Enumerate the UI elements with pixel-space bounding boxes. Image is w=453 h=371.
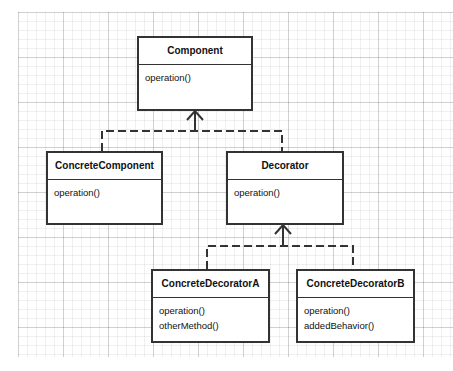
operations-list: operation() [48, 180, 161, 205]
operation: operation() [304, 303, 407, 318]
operation: otherMethod() [159, 318, 262, 333]
class-name: ConcreteDecoratorB [298, 271, 413, 298]
class-name: Decorator [228, 153, 342, 180]
class-component[interactable]: Component operation() [137, 36, 253, 111]
class-concrete-decorator-b[interactable]: ConcreteDecoratorB operation() addedBeha… [296, 269, 415, 343]
class-concrete-component[interactable]: ConcreteComponent operation() [46, 151, 163, 225]
operations-list: operation() [228, 180, 342, 205]
class-name: Component [139, 38, 251, 65]
dashed-connector-upper [102, 131, 282, 151]
operations-list: operation() otherMethod() [153, 298, 268, 338]
dashed-connector-lower [207, 246, 353, 269]
operation: addedBehavior() [304, 318, 407, 333]
class-decorator[interactable]: Decorator operation() [226, 151, 344, 225]
operations-list: operation() [139, 65, 251, 90]
operation: operation() [54, 185, 155, 200]
class-name: ConcreteComponent [48, 153, 161, 180]
operation: operation() [234, 185, 336, 200]
operation: operation() [145, 70, 245, 85]
class-concrete-decorator-a[interactable]: ConcreteDecoratorA operation() otherMeth… [151, 269, 270, 343]
class-name: ConcreteDecoratorA [153, 271, 268, 298]
operation: operation() [159, 303, 262, 318]
operations-list: operation() addedBehavior() [298, 298, 413, 338]
